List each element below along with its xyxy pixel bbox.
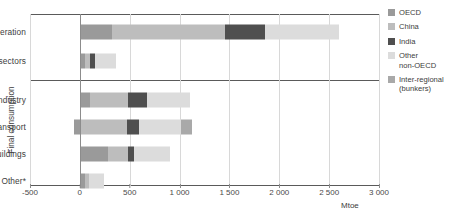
- bar-row: Buildings: [30, 140, 379, 168]
- bar-segment: [134, 147, 169, 162]
- x-tick-label: 1 500: [219, 188, 239, 197]
- bar-segment: [80, 147, 108, 162]
- legend-swatch-icon: [388, 9, 395, 16]
- x-tick-mark: [279, 184, 280, 188]
- bar-segment: [108, 147, 128, 162]
- legend-swatch-icon: [388, 38, 395, 45]
- bar-stack: [30, 147, 379, 162]
- x-tick-label: -500: [22, 188, 38, 197]
- bar-segment: [80, 120, 127, 135]
- x-tick-label: 1 000: [170, 188, 190, 197]
- x-tick-mark: [229, 184, 230, 188]
- bar-segment: [80, 25, 112, 40]
- plot-area: Power generationOther energy sectorsIndu…: [30, 14, 379, 186]
- legend-item[interactable]: Inter-regional (bunkers): [388, 75, 452, 94]
- legend-label: OECD: [399, 8, 421, 17]
- x-tick-mark: [30, 184, 31, 188]
- x-tick-mark: [379, 184, 380, 188]
- legend: OECDChinaIndiaOther non-OECDInter-region…: [388, 8, 452, 99]
- bar-segment: [127, 120, 139, 135]
- legend-label: China: [399, 22, 419, 31]
- bar-segment: [128, 93, 146, 108]
- gridline-3000: [379, 14, 380, 186]
- bar-segment: [112, 25, 226, 40]
- legend-label: India: [399, 37, 415, 46]
- x-tick-mark: [180, 184, 181, 188]
- bar-row: Power generation: [30, 18, 379, 46]
- legend-swatch-icon: [388, 76, 395, 83]
- x-tick-label: 2 500: [319, 188, 339, 197]
- bar-row-label: Other*: [1, 176, 26, 186]
- bar-row: Transport: [30, 113, 379, 141]
- legend-item[interactable]: China: [388, 22, 452, 31]
- bar-stack: [30, 174, 379, 189]
- bar-segment: [95, 54, 115, 69]
- bar-segment: [225, 25, 264, 40]
- legend-label: Inter-regional (bunkers): [399, 75, 444, 94]
- plot-top-rule: [30, 14, 379, 15]
- x-tick-label: 500: [123, 188, 136, 197]
- x-tick-mark: [329, 184, 330, 188]
- bar-row-label: Transport: [0, 122, 26, 132]
- bar-segment: [147, 93, 190, 108]
- zero-axis-line: [80, 14, 81, 186]
- legend-item[interactable]: Other non-OECD: [388, 51, 452, 70]
- x-tick-label: 2 000: [269, 188, 289, 197]
- bar-stack: [30, 93, 379, 108]
- bar-segment: [80, 93, 90, 108]
- x-tick-label: 3 000: [369, 188, 389, 197]
- bar-row: Industry: [30, 86, 379, 114]
- stacked-bar-chart: Final consumption Power generationOther …: [0, 0, 454, 218]
- bar-segment: [181, 120, 191, 135]
- plot-mid-rule: [30, 80, 379, 81]
- bar-segment: [90, 93, 128, 108]
- legend-item[interactable]: India: [388, 37, 452, 46]
- bar-stack: [30, 25, 379, 40]
- x-axis-unit-label: Mtoe: [341, 201, 359, 210]
- legend-swatch-icon: [388, 23, 395, 30]
- legend-label: Other non-OECD: [399, 51, 436, 70]
- x-tick-label: 0: [78, 188, 82, 197]
- x-axis-ticks: -50005001 0001 5002 0002 5003 000: [30, 188, 379, 200]
- bar-stack: [30, 54, 379, 69]
- bar-row-label: Power generation: [0, 27, 26, 37]
- bar-stack: [30, 120, 379, 135]
- bar-row-label: Other energy sectors: [0, 56, 26, 66]
- bar-segment: [265, 25, 339, 40]
- x-tick-mark: [130, 184, 131, 188]
- bar-row-label: Buildings: [0, 149, 26, 159]
- bar-segment: [89, 174, 104, 189]
- legend-item[interactable]: OECD: [388, 8, 452, 17]
- bar-row: Other energy sectors: [30, 47, 379, 75]
- legend-swatch-icon: [388, 52, 395, 59]
- bar-segment: [139, 120, 181, 135]
- bar-row-label: Industry: [0, 95, 26, 105]
